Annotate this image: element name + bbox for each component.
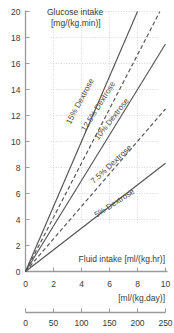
secondary-x-axis-tick-label: 50	[49, 318, 59, 328]
y-axis-tick-label: 10	[11, 137, 21, 147]
y-axis-tick-label: 16	[11, 59, 21, 69]
series-label-5: 5% Dextrose	[93, 187, 137, 220]
y-axis-tick-label: 4	[16, 215, 21, 225]
x-axis-tick-label: 2	[51, 279, 56, 289]
y-axis-title-line1: Glucose intake	[47, 7, 103, 17]
y-axis-tick-label: 8	[16, 163, 21, 173]
secondary-x-axis-tick-label: 200	[130, 318, 144, 328]
chart-canvas: 024681012141618200246810050100150200250 …	[0, 0, 174, 333]
y-axis-tick-label: 20	[11, 7, 21, 17]
secondary-x-axis-tick-label: 0	[23, 318, 28, 328]
series-label-7.5: 7.5% Dextrose	[89, 143, 134, 186]
y-axis-tick-label: 6	[16, 189, 21, 199]
axis-titles: Glucose intake[mg/(kg.min)]Fluid intake …	[47, 7, 165, 303]
y-axis-tick-label: 0	[16, 267, 21, 277]
secondary-x-axis-tick-label: 100	[74, 318, 88, 328]
y-axis-tick-label: 18	[11, 33, 21, 43]
x-axis-tick-label: 4	[79, 279, 84, 289]
axes	[26, 11, 168, 313]
x-axis-tick-label: 0	[23, 279, 28, 289]
secondary-x-axis-tick-label: 250	[158, 318, 172, 328]
y-axis-tick-label: 14	[11, 85, 21, 95]
series-labels: 15% Dextrose12.5% Dextrose10% Dextrose7.…	[64, 77, 136, 220]
y-axis-tick-label: 12	[11, 111, 21, 121]
x-axis-tick-label: 8	[135, 279, 140, 289]
tick-labels: 024681012141618200246810050100150200250	[11, 7, 173, 328]
secondary-x-axis-title: [ml/(kg.day)]	[118, 293, 165, 303]
y-axis-title-line2: [mg/(kg.min)]	[51, 18, 101, 28]
x-axis-title: Fluid intake [ml/(kg.hr)]	[79, 254, 165, 264]
x-axis-tick-label: 6	[107, 279, 112, 289]
x-axis-tick-label: 10	[161, 279, 171, 289]
tick-marks	[26, 12, 166, 313]
secondary-x-axis-tick-label: 150	[102, 318, 116, 328]
series-line-10	[26, 44, 166, 272]
y-axis-tick-label: 2	[16, 241, 21, 251]
glucose-intake-chart: 024681012141618200246810050100150200250 …	[0, 0, 174, 333]
